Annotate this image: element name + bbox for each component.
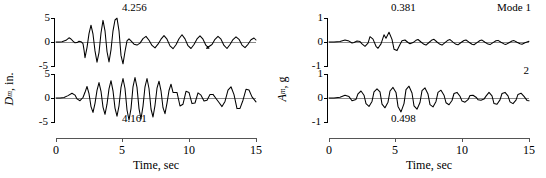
x-tick-mark-5 xyxy=(122,138,123,142)
y-axis-label-left: Dm, in. xyxy=(0,0,18,178)
y-tick-mark-high xyxy=(324,18,328,19)
y-tick-mark-mid xyxy=(324,98,328,99)
y-tick-mark-mid xyxy=(324,42,328,43)
peak-annotation-displacement-mode1: 4.256 xyxy=(122,1,147,13)
corner-label-mode-1: Mode 1 xyxy=(497,1,531,13)
plot-area xyxy=(329,14,529,70)
x-tick-label-10: 10 xyxy=(448,143,476,158)
y-tick-label-mid: 0 xyxy=(301,92,323,103)
y-tick-mark-mid xyxy=(51,98,55,99)
y-tick-mark-high xyxy=(51,74,55,75)
y-tick-label-mid: 0 xyxy=(28,36,50,47)
x-tick-mark-5 xyxy=(395,138,396,142)
x-axis-line xyxy=(329,138,529,139)
y-axis-label-right-sub: m xyxy=(278,88,287,94)
x-axis-label-left: Time, sec xyxy=(56,158,256,173)
peak-annotation-displacement-mode2: 4.161 xyxy=(122,112,147,124)
y-tick-label-mid: 0 xyxy=(28,92,50,103)
y-axis-label-left-main: D xyxy=(2,97,17,106)
y-tick-label-high: 5 xyxy=(28,68,50,79)
x-tick-label-5: 5 xyxy=(108,143,136,158)
y-tick-mark-low xyxy=(324,66,328,67)
y-tick-mark-high xyxy=(324,74,328,75)
x-tick-label-15: 15 xyxy=(242,143,270,158)
plot-area xyxy=(56,14,256,70)
subplot-acceleration-mode2: 1 0 -1 0.498 2 xyxy=(317,70,529,126)
subplot-acceleration-mode1: 1 0 -1 0.381 Mode 1 xyxy=(317,14,529,70)
y-axis-label-left-sub: m xyxy=(5,91,14,97)
x-tick-label-10: 10 xyxy=(175,143,203,158)
subplot-displacement-mode1: 5 0 -5 4.256 xyxy=(44,14,256,70)
x-tick-mark-10 xyxy=(189,138,190,142)
x-tick-mark-15 xyxy=(256,138,257,142)
x-tick-mark-0 xyxy=(56,138,57,142)
x-tick-mark-10 xyxy=(462,138,463,142)
x-axis-label-right: Time, sec xyxy=(329,158,529,173)
plot-area xyxy=(329,70,529,126)
panel-displacement: Dm, in. 5 0 -5 4.256 xyxy=(0,0,273,178)
y-axis-label-right: Am, g xyxy=(273,0,291,178)
y-axis-label-left-unit: , in. xyxy=(2,73,17,91)
peak-annotation-acceleration-mode1: 0.381 xyxy=(391,1,416,13)
corner-label-mode-2: 2 xyxy=(524,64,530,76)
y-tick-label-high: 1 xyxy=(301,12,323,23)
peak-annotation-acceleration-mode2: 0.498 xyxy=(391,112,416,124)
plot-area xyxy=(56,70,256,126)
trace-displacement-mode2 xyxy=(56,70,256,126)
y-tick-label-high: 5 xyxy=(28,12,50,23)
x-tick-label-15: 15 xyxy=(515,143,543,158)
y-tick-label-high: 1 xyxy=(301,68,323,79)
y-tick-mark-high xyxy=(51,18,55,19)
trace-displacement-mode1 xyxy=(56,14,256,70)
subplot-displacement-mode2: 5 0 -5 4.161 xyxy=(44,70,256,126)
waveform-figure: Dm, in. 5 0 -5 4.256 xyxy=(0,0,546,178)
x-tick-mark-15 xyxy=(529,138,530,142)
x-tick-label-0: 0 xyxy=(42,143,70,158)
x-axis-line xyxy=(56,138,256,139)
x-tick-label-5: 5 xyxy=(381,143,409,158)
y-tick-mark-low xyxy=(51,122,55,123)
x-tick-mark-0 xyxy=(329,138,330,142)
y-axis-label-right-unit: , g xyxy=(275,76,290,88)
y-tick-label-low: -5 xyxy=(26,116,48,127)
trace-acceleration-mode2 xyxy=(329,70,529,126)
x-tick-label-0: 0 xyxy=(315,143,343,158)
y-tick-mark-low xyxy=(51,66,55,67)
panel-acceleration: Am, g 1 0 -1 0.381 Mode 1 xyxy=(273,0,546,178)
y-tick-label-low: -1 xyxy=(299,116,321,127)
y-tick-mark-mid xyxy=(51,42,55,43)
trace-acceleration-mode1 xyxy=(329,14,529,70)
y-tick-mark-low xyxy=(324,122,328,123)
y-axis-label-right-main: A xyxy=(275,94,290,101)
y-tick-label-mid: 0 xyxy=(301,36,323,47)
